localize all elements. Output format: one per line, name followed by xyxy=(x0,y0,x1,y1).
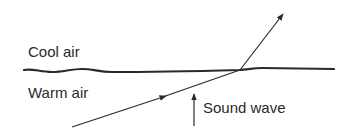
refracted-ray xyxy=(240,14,283,70)
sound-wave-label: Sound wave xyxy=(203,99,286,116)
warm-air-label: Warm air xyxy=(28,84,88,101)
air-boundary-line xyxy=(24,68,334,72)
refraction-diagram: Cool air Warm air Sound wave xyxy=(0,0,348,134)
cool-air-label: Cool air xyxy=(28,43,80,60)
incident-ray-continuation xyxy=(164,70,240,97)
